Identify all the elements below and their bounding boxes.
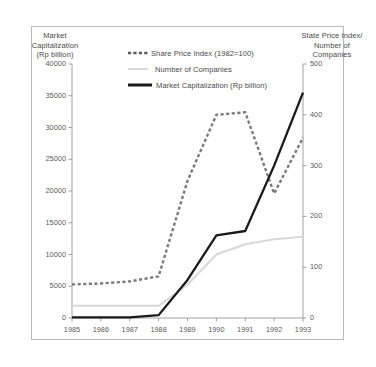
left-tick-label-0: 0 <box>30 314 66 322</box>
left-tick-label-35000: 35000 <box>30 92 66 100</box>
right-tick-label-200: 200 <box>310 212 344 220</box>
right-tick-label-100: 100 <box>310 263 344 271</box>
right-tick-label-500: 500 <box>310 60 344 68</box>
legend-label-share-price-index: Share Price Index (1982=100) <box>151 49 254 58</box>
legend-swatches <box>128 53 152 85</box>
series-layer <box>72 93 303 318</box>
x-tick-label-1993: 1993 <box>288 326 318 334</box>
x-tick-label-1985: 1985 <box>57 326 87 334</box>
left-tick-label-10000: 10000 <box>30 251 66 259</box>
left-axis-ticks <box>69 64 73 318</box>
right-tick-label-400: 400 <box>310 111 344 119</box>
x-axis-ticks <box>72 318 303 322</box>
series-share-price-index <box>72 112 303 284</box>
left-tick-label-30000: 30000 <box>30 124 66 132</box>
x-tick-label-1990: 1990 <box>201 326 231 334</box>
x-tick-label-1988: 1988 <box>144 326 174 334</box>
left-tick-label-25000: 25000 <box>30 155 66 163</box>
legend-label-market-capitalization: Market Capitalization (Rp billion) <box>156 81 267 90</box>
x-tick-label-1991: 1991 <box>230 326 260 334</box>
x-tick-label-1989: 1989 <box>173 326 203 334</box>
right-tick-label-300: 300 <box>310 162 344 170</box>
chart-figure: Market Capitalization (Rp billion) State… <box>0 0 376 367</box>
series-number-of-companies <box>72 237 303 306</box>
left-tick-label-15000: 15000 <box>30 219 66 227</box>
x-tick-label-1992: 1992 <box>259 326 289 334</box>
right-tick-label-0: 0 <box>310 314 344 322</box>
left-tick-label-5000: 5000 <box>30 282 66 290</box>
left-tick-label-20000: 20000 <box>30 187 66 195</box>
x-tick-label-1987: 1987 <box>115 326 145 334</box>
legend-label-number-of-companies: Number of Companies <box>155 65 232 74</box>
right-axis-ticks <box>303 64 307 318</box>
x-tick-label-1986: 1986 <box>86 326 116 334</box>
left-tick-label-40000: 40000 <box>30 60 66 68</box>
